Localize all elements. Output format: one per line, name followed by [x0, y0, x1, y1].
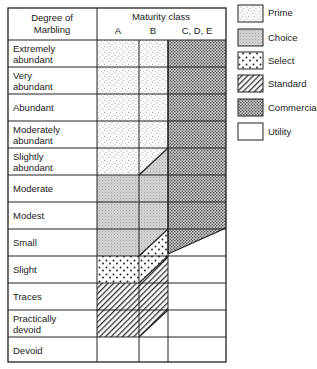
select-swatch-icon	[238, 52, 263, 69]
row-label: Moderate	[13, 183, 53, 194]
prime-swatch-icon	[238, 5, 263, 22]
row-label: Modest	[13, 210, 45, 221]
row-label: Traces	[13, 291, 42, 302]
legend-item-select: Select	[238, 52, 295, 69]
commercial-swatch-icon	[238, 99, 263, 116]
row-header-line2: Marbling	[34, 24, 70, 35]
utility-swatch-icon	[238, 123, 263, 140]
grade-regions	[97, 40, 226, 337]
legend-label: Utility	[268, 126, 291, 137]
row-labels: Extremely abundant Very abundant Abundan…	[13, 43, 60, 356]
legend-label: Choice	[268, 32, 298, 43]
row-label: Slightly	[13, 151, 44, 162]
choice-swatch-icon	[238, 29, 263, 46]
column-group-label: Maturity class	[132, 11, 190, 22]
legend: Prime Choice Select Standard Commercial …	[238, 5, 317, 140]
legend-item-standard: Standard	[238, 75, 307, 92]
legend-label: Prime	[268, 7, 293, 18]
legend-label: Commercial	[268, 102, 317, 113]
row-label: Devoid	[13, 345, 43, 356]
region-commercial	[168, 40, 226, 254]
column-label-cde: C, D, E	[182, 25, 213, 36]
row-label: Very	[13, 70, 32, 81]
legend-label: Select	[268, 55, 295, 66]
row-label: abundant	[13, 162, 53, 173]
row-label: devoid	[13, 324, 41, 335]
row-label: Extremely	[13, 43, 55, 54]
marbling-grade-diagram: Degree of Marbling Maturity class A B C,…	[0, 0, 317, 369]
legend-item-choice: Choice	[238, 29, 298, 46]
legend-label: Standard	[268, 78, 307, 89]
legend-item-utility: Utility	[238, 123, 291, 140]
row-label: Moderately	[13, 124, 60, 135]
region-prime	[97, 40, 168, 175]
column-label-a: A	[115, 25, 122, 36]
legend-item-prime: Prime	[238, 5, 293, 22]
row-label: Abundant	[13, 102, 54, 113]
row-label: abundant	[13, 81, 53, 92]
row-label: abundant	[13, 54, 53, 65]
legend-item-commercial: Commercial	[238, 99, 317, 116]
row-header-line1: Degree of	[31, 12, 73, 23]
row-label: abundant	[13, 135, 53, 146]
column-label-b: B	[150, 25, 156, 36]
row-label: Small	[13, 237, 37, 248]
row-label: Slight	[13, 264, 37, 275]
row-label: Practically	[13, 313, 57, 324]
standard-swatch-icon	[238, 75, 263, 92]
